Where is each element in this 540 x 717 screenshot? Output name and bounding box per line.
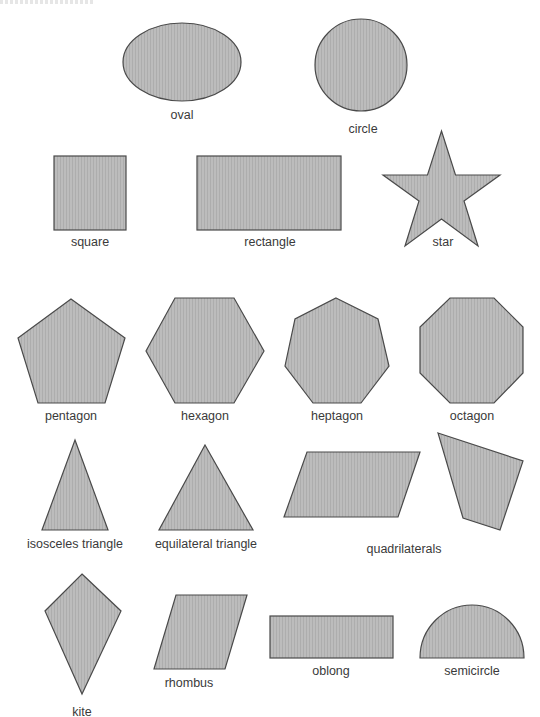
heptagon-shape — [285, 298, 389, 403]
kite-shape — [45, 574, 121, 694]
label-hexagon: hexagon — [181, 410, 229, 423]
oblong-shape — [270, 616, 393, 658]
label-octagon: octagon — [450, 410, 494, 423]
shapes-canvas — [0, 0, 540, 717]
equilateral-triangle-shape — [159, 445, 253, 530]
oval-shape — [123, 23, 241, 101]
label-isosceles-triangle: isosceles triangle — [27, 538, 123, 551]
octagon-shape — [420, 298, 523, 403]
label-star: star — [433, 236, 454, 249]
label-rectangle: rectangle — [244, 236, 295, 249]
label-oval: oval — [171, 109, 194, 122]
hexagon-shape — [146, 298, 264, 403]
label-quadrilaterals: quadrilaterals — [366, 543, 441, 556]
label-oblong: oblong — [312, 665, 350, 678]
circle-shape — [315, 19, 407, 111]
label-pentagon: pentagon — [45, 410, 97, 423]
label-circle: circle — [348, 123, 377, 136]
star-shape — [383, 131, 500, 246]
shapes-diagram: oval circle square rectangle star pentag… — [0, 0, 540, 717]
label-rhombus: rhombus — [165, 677, 214, 690]
square-shape — [54, 156, 126, 230]
label-kite: kite — [72, 706, 91, 717]
cropped-header-text — [0, 0, 95, 4]
irregular-quadrilateral-shape — [438, 433, 523, 530]
label-equilateral-triangle: equilateral triangle — [155, 538, 257, 551]
isosceles-triangle-shape — [42, 440, 108, 530]
pentagon-shape — [18, 299, 125, 403]
semicircle-shape — [420, 605, 524, 658]
parallelogram-shape — [284, 452, 420, 517]
rectangle-shape — [197, 156, 341, 230]
label-square: square — [71, 236, 109, 249]
rhombus-shape — [154, 595, 247, 669]
label-semicircle: semicircle — [444, 665, 500, 678]
label-heptagon: heptagon — [311, 410, 363, 423]
